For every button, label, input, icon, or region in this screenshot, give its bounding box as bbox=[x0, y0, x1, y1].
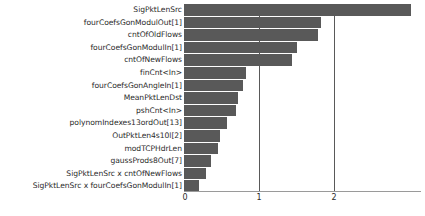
bar bbox=[184, 80, 243, 92]
bar-row: cntOfOldFlows bbox=[0, 29, 425, 41]
bar bbox=[184, 54, 292, 66]
bar-track bbox=[184, 105, 425, 117]
bar-track bbox=[184, 117, 425, 129]
bar-row: modTCPHdrLen bbox=[0, 143, 425, 155]
x-tick-2: 2 bbox=[331, 193, 336, 203]
bar-row: polynomIndexes13ordOut[13] bbox=[0, 117, 425, 129]
bar-row-label: polynomIndexes13ordOut[13] bbox=[0, 117, 183, 129]
bar-track bbox=[184, 67, 425, 79]
bar-row: fourCoefsGonModulIn[1] bbox=[0, 42, 425, 54]
bar-row-label: fourCoefsGonAngleIn[1] bbox=[0, 80, 183, 92]
bar-track bbox=[184, 54, 425, 66]
bar-row-label: finCnt<In> bbox=[0, 67, 183, 79]
bar-row: finCnt<In> bbox=[0, 67, 425, 79]
bar-row: SigPktLenSrc bbox=[0, 4, 425, 16]
bar-row-label: MeanPktLenDst bbox=[0, 92, 183, 104]
bar bbox=[184, 92, 238, 104]
bar-row-label: cntOfOldFlows bbox=[0, 29, 183, 41]
bar-row: gaussProds8Out[7] bbox=[0, 155, 425, 167]
bar bbox=[184, 105, 236, 117]
bar-track bbox=[184, 4, 425, 16]
bar-track bbox=[184, 92, 425, 104]
bar-track bbox=[184, 42, 425, 54]
bar-row: SigPktLenSrc x cntOfNewFlows bbox=[0, 168, 425, 180]
bar-row: fourCoefsGonAngleIn[1] bbox=[0, 80, 425, 92]
bar bbox=[184, 155, 211, 167]
bar-track bbox=[184, 155, 425, 167]
bar-row-label: gaussProds8Out[7] bbox=[0, 155, 183, 167]
bar-track bbox=[184, 80, 425, 92]
bar bbox=[184, 4, 411, 16]
gridline-1 bbox=[259, 14, 260, 191]
bar-row-label: SigPktLenSrc x cntOfNewFlows bbox=[0, 168, 183, 180]
bar bbox=[184, 168, 206, 180]
bar-row-label: cntOfNewFlows bbox=[0, 54, 183, 66]
feature-importance-chart: SigPktLenSrcfourCoefsGonModulOut[1]cntOf… bbox=[0, 0, 425, 216]
bar-row: pshCnt<In> bbox=[0, 105, 425, 117]
x-tick-1: 1 bbox=[256, 193, 261, 203]
bar-row-label: SigPktLenSrc bbox=[0, 4, 183, 16]
gridline-2 bbox=[334, 14, 335, 191]
bar bbox=[184, 42, 297, 54]
bar-row-label: fourCoefsGonModulIn[1] bbox=[0, 42, 183, 54]
bar-track bbox=[184, 143, 425, 155]
bar-row-label: pshCnt<In> bbox=[0, 105, 183, 117]
bar bbox=[184, 130, 220, 142]
bar-track bbox=[184, 17, 425, 29]
bar-row-label: SigPktLenSrc x fourCoefsGonModulIn[1] bbox=[0, 180, 183, 192]
bar bbox=[184, 67, 246, 79]
bar bbox=[184, 17, 321, 29]
bar-row-label: OutPktLen4s10l[2] bbox=[0, 130, 183, 142]
bar bbox=[184, 29, 318, 41]
bar-track bbox=[184, 29, 425, 41]
bar-rows: SigPktLenSrcfourCoefsGonModulOut[1]cntOf… bbox=[0, 4, 425, 193]
bar-row: cntOfNewFlows bbox=[0, 54, 425, 66]
x-axis-line bbox=[184, 191, 421, 192]
bar-row: OutPktLen4s10l[2] bbox=[0, 130, 425, 142]
bar-row: fourCoefsGonModulOut[1] bbox=[0, 17, 425, 29]
bar-row-label: fourCoefsGonModulOut[1] bbox=[0, 17, 183, 29]
x-tick-0: 0 bbox=[182, 193, 187, 203]
plot-area: SigPktLenSrcfourCoefsGonModulOut[1]cntOf… bbox=[0, 0, 425, 216]
bar-track bbox=[184, 130, 425, 142]
bar bbox=[184, 117, 227, 129]
bar bbox=[184, 143, 218, 155]
bar-track bbox=[184, 168, 425, 180]
bar-row: MeanPktLenDst bbox=[0, 92, 425, 104]
bar-row-label: modTCPHdrLen bbox=[0, 143, 183, 155]
